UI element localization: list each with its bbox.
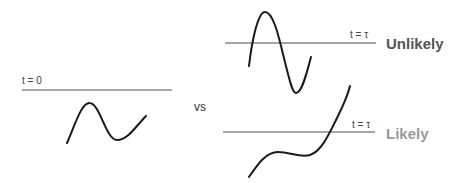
time-label-tau-bottom: t = τ	[352, 120, 370, 130]
diagram-canvas	[0, 0, 457, 183]
time-label-tau-top: t = τ	[350, 30, 368, 40]
wave-curve-unlikely	[249, 12, 311, 93]
vs-label: vs	[194, 101, 206, 113]
verdict-unlikely: Unlikely	[386, 36, 444, 51]
time-label-t0: t = 0	[22, 76, 42, 86]
wave-curve-t0	[67, 103, 146, 143]
verdict-likely: Likely	[386, 126, 429, 141]
